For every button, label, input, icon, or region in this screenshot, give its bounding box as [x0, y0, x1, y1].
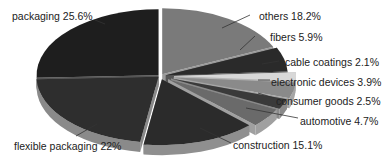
slice-label: construction 15.1%: [233, 139, 322, 151]
slice-label: cable coatings 2.1%: [285, 56, 379, 68]
slice-label: electronic devices 3.9%: [271, 76, 381, 88]
pie-slices: [37, 8, 296, 155]
slice-label: packaging 25.6%: [12, 10, 93, 22]
slice-label: fibers 5.9%: [270, 31, 323, 43]
slice-label: automotive 4.7%: [300, 115, 378, 127]
slice-label: flexible packaging 22%: [14, 140, 121, 152]
slice-label: others 18.2%: [259, 10, 321, 22]
slice-label: consumer goods 2.5%: [276, 95, 380, 107]
